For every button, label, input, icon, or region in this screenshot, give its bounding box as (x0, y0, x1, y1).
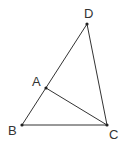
point-B (20, 123, 23, 126)
label-C: C (109, 127, 118, 142)
segment-DC (87, 24, 107, 125)
label-A: A (32, 74, 41, 89)
label-B: B (8, 123, 17, 138)
point-A (44, 86, 47, 89)
point-D (85, 22, 88, 25)
geometry-diagram: D A B C (0, 0, 125, 150)
segment-AC (46, 88, 107, 125)
label-D: D (84, 6, 93, 21)
